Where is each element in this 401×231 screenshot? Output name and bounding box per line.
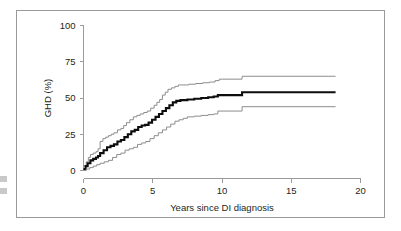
series-line-cumulative-incidence (84, 92, 336, 169)
figure-root: 0255075100 05101520 GHD (%) Years since … (0, 0, 401, 231)
x-axis-ticks: 05101520 (81, 179, 366, 196)
ghd-cumulative-incidence-chart: 0255075100 05101520 GHD (%) Years since … (0, 0, 401, 231)
x-axis-group: 05101520 (81, 179, 366, 196)
y-axis-title: GHD (%) (42, 79, 53, 118)
y-tick-label: 100 (60, 20, 76, 31)
data-series-group (84, 76, 336, 170)
x-tick-label: 10 (217, 185, 228, 196)
y-axis-group: 0255075100 (60, 20, 84, 176)
series-line-confidence-interval (84, 107, 336, 171)
x-tick-label: 20 (355, 185, 366, 196)
x-tick-label: 5 (150, 185, 155, 196)
y-tick-label: 0 (70, 165, 75, 176)
x-tick-label: 15 (286, 185, 297, 196)
x-axis-title: Years since DI diagnosis (170, 202, 274, 213)
y-tick-label: 50 (65, 92, 76, 103)
y-tick-label: 75 (65, 56, 76, 67)
y-tick-label: 25 (65, 129, 76, 140)
y-axis-ticks: 0255075100 (60, 20, 84, 176)
x-tick-label: 0 (81, 185, 86, 196)
